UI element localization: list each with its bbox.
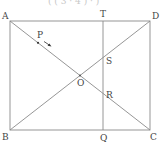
label-t: T bbox=[100, 9, 106, 19]
label-a: A bbox=[1, 11, 9, 21]
label-b: B bbox=[2, 132, 9, 142]
cropped-header-text: ( ( 3 · 4 ) · ) bbox=[48, 0, 99, 6]
label-q: Q bbox=[100, 133, 107, 143]
point-o-marker bbox=[79, 75, 81, 77]
label-p: P bbox=[37, 30, 43, 40]
geometry-diagram: ( ( 3 · 4 ) · ) A T D P S O R B Q C bbox=[0, 0, 160, 143]
label-d: D bbox=[152, 11, 159, 21]
point-p-marker bbox=[37, 42, 39, 44]
label-c: C bbox=[150, 132, 157, 142]
label-r: R bbox=[106, 90, 113, 100]
label-o: O bbox=[77, 78, 84, 88]
label-s: S bbox=[106, 56, 112, 66]
motion-arrow-icon bbox=[44, 42, 52, 47]
